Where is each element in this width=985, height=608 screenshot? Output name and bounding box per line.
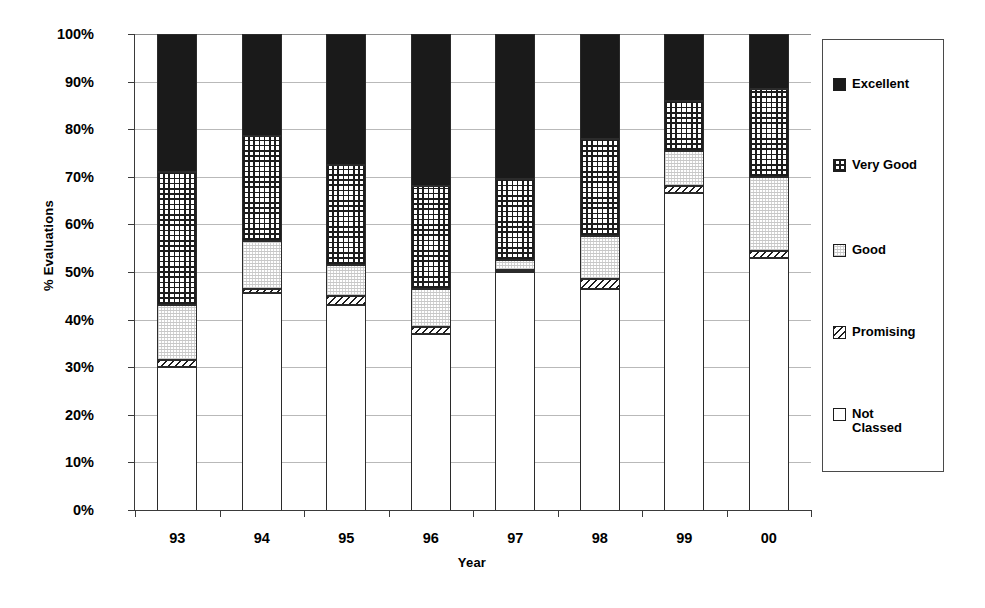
y-axis-tick-label: 30%: [36, 360, 94, 375]
bar-segment[interactable]: [581, 34, 619, 139]
stacked-bar[interactable]: [495, 34, 535, 510]
x-axis-tick-label: 94: [227, 530, 297, 546]
bar-segment[interactable]: [496, 272, 534, 510]
bar-segment[interactable]: [158, 360, 196, 367]
bar-segment[interactable]: [158, 172, 196, 305]
x-axis-tick-mark: [642, 510, 643, 517]
bar-segment[interactable]: [665, 101, 703, 151]
legend-item-label: Good: [852, 243, 886, 257]
y-axis-tick-label: 70%: [36, 170, 94, 185]
y-axis-tick-mark: [128, 272, 135, 273]
bar-segment[interactable]: [750, 251, 788, 258]
legend-item[interactable]: Very Good: [833, 158, 917, 172]
y-axis-tick-labels: 0%10%20%30%40%50%60%70%80%90%100%: [36, 0, 94, 608]
stacked-bar[interactable]: [242, 34, 282, 510]
bar-segment[interactable]: [412, 186, 450, 288]
bar-segment[interactable]: [496, 34, 534, 179]
legend-item[interactable]: Good: [833, 243, 886, 257]
stacked-bar[interactable]: [411, 34, 451, 510]
bar-segment[interactable]: [243, 34, 281, 136]
y-axis-tick-label: 0%: [36, 503, 94, 518]
bar-segment[interactable]: [327, 305, 365, 510]
x-axis-title: Year: [134, 555, 810, 570]
bar-segment[interactable]: [158, 34, 196, 172]
y-axis-tick-mark: [128, 320, 135, 321]
y-axis-tick-mark: [128, 177, 135, 178]
bar-column: [727, 34, 812, 510]
bar-segment[interactable]: [243, 293, 281, 510]
bar-segment[interactable]: [158, 305, 196, 360]
bar-segment[interactable]: [665, 193, 703, 510]
bar-segment[interactable]: [496, 179, 534, 260]
stacked-bar[interactable]: [580, 34, 620, 510]
y-axis-tick-label: 80%: [36, 122, 94, 137]
y-axis-tick-label: 40%: [36, 312, 94, 327]
legend-item-label: Very Good: [852, 158, 917, 172]
legend-item[interactable]: Excellent: [833, 77, 909, 91]
x-axis-tick-mark: [558, 510, 559, 517]
bar-column: [642, 34, 727, 510]
legend-item-label: Excellent: [852, 77, 909, 91]
x-axis-tick-label: 96: [396, 530, 466, 546]
bar-segment[interactable]: [327, 296, 365, 306]
bar-segment[interactable]: [496, 270, 534, 272]
x-axis-tick-mark: [304, 510, 305, 517]
y-axis-tick-label: 60%: [36, 217, 94, 232]
legend-item-label: Promising: [852, 325, 916, 339]
stacked-bar[interactable]: [326, 34, 366, 510]
bar-segment[interactable]: [158, 367, 196, 510]
y-axis-tick-label: 20%: [36, 408, 94, 423]
x-axis-tick-label: 95: [311, 530, 381, 546]
legend-item[interactable]: Promising: [833, 325, 916, 339]
bar-segment[interactable]: [581, 279, 619, 289]
stacked-bar[interactable]: [664, 34, 704, 510]
bar-segment[interactable]: [665, 151, 703, 187]
bar-segment[interactable]: [327, 265, 365, 296]
bar-column: [220, 34, 305, 510]
stacked-bar[interactable]: [749, 34, 789, 510]
bar-column: [473, 34, 558, 510]
bar-segment[interactable]: [496, 260, 534, 270]
x-axis-tick-mark: [135, 510, 136, 517]
y-axis-tick-mark: [128, 82, 135, 83]
y-axis-tick-mark: [128, 367, 135, 368]
bar-segment[interactable]: [581, 289, 619, 510]
bar-segment[interactable]: [581, 139, 619, 237]
legend-swatch-icon: [833, 159, 846, 172]
x-axis-tick-label: 97: [480, 530, 550, 546]
bar-segment[interactable]: [750, 89, 788, 177]
stacked-bar-chart: % Evaluations 0%10%20%30%40%50%60%70%80%…: [0, 0, 985, 608]
x-axis-tick-label: 99: [649, 530, 719, 546]
stacked-bar[interactable]: [157, 34, 197, 510]
bar-segment[interactable]: [750, 258, 788, 510]
x-axis-tick-mark: [727, 510, 728, 517]
bar-segment[interactable]: [243, 289, 281, 294]
legend-item[interactable]: Not Classed: [833, 407, 902, 435]
y-axis-tick-mark: [128, 510, 135, 511]
bar-column: [558, 34, 643, 510]
x-axis-tick-label: 00: [734, 530, 804, 546]
y-axis-tick-mark: [128, 224, 135, 225]
bar-segment[interactable]: [327, 165, 365, 265]
y-axis-tick-mark: [128, 415, 135, 416]
bar-segment[interactable]: [412, 327, 450, 334]
bar-segment[interactable]: [665, 34, 703, 101]
bar-segment[interactable]: [243, 241, 281, 289]
bar-segment[interactable]: [412, 334, 450, 510]
bar-segment[interactable]: [581, 236, 619, 279]
legend-item-label: Not Classed: [852, 407, 902, 435]
bar-segment[interactable]: [412, 34, 450, 186]
bar-segment[interactable]: [665, 186, 703, 193]
legend-swatch-icon: [833, 244, 846, 257]
y-axis-tick-label: 100%: [36, 27, 94, 42]
bar-column: [304, 34, 389, 510]
bar-segment[interactable]: [750, 177, 788, 251]
y-axis-tick-mark: [128, 34, 135, 35]
legend-swatch-icon: [833, 326, 846, 339]
bar-segment[interactable]: [243, 136, 281, 241]
bar-segment[interactable]: [327, 34, 365, 165]
y-axis-tick-label: 50%: [36, 265, 94, 280]
bar-segment[interactable]: [412, 289, 450, 327]
bar-column: [389, 34, 474, 510]
bar-segment[interactable]: [750, 34, 788, 89]
